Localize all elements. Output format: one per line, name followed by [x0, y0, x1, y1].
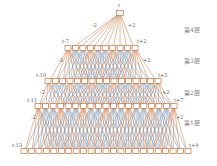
layer-3-label: 第3层: [184, 56, 200, 65]
node-box: [117, 11, 124, 16]
edge-label: -2: [31, 114, 36, 120]
node-box: [102, 46, 108, 51]
node-box: [58, 104, 64, 109]
edge-label: -2: [92, 22, 97, 28]
node-box: [28, 149, 34, 154]
node-box: [21, 149, 27, 154]
node-box: [66, 149, 72, 154]
node-box: [126, 104, 132, 109]
tcn-diagram: t t-7 t+2 t-10 t+5 t-11 t+7 t-13 t+9 -2 …: [0, 0, 217, 166]
node-box: [43, 104, 49, 109]
layer-1-label: 第1层: [184, 118, 200, 127]
node-box: [178, 149, 184, 154]
node-box: [96, 79, 102, 84]
node-box: [80, 46, 86, 51]
node-box: [95, 46, 101, 51]
node-box: [81, 149, 87, 154]
node-box: [89, 79, 95, 84]
node-box: [58, 149, 64, 154]
node-box: [111, 104, 117, 109]
node-box: [185, 149, 191, 154]
node-box: [74, 79, 80, 84]
layer-2-label: 第2层: [184, 88, 200, 97]
edge-label: +2: [162, 89, 169, 95]
node-box: [87, 46, 93, 51]
node-box: [35, 104, 41, 109]
node-box: [103, 149, 109, 154]
node-box: [140, 79, 146, 84]
node-box: [155, 79, 161, 84]
node-box: [141, 104, 147, 109]
node-box: [132, 46, 138, 51]
node-box: [110, 149, 116, 154]
node-box: [126, 79, 132, 84]
edge-label: +2: [128, 22, 135, 28]
l2-right-label: t+5: [158, 72, 167, 78]
node-box: [125, 46, 131, 51]
node-box: [133, 104, 139, 109]
edge-label: -2: [40, 89, 45, 95]
node-box: [163, 149, 169, 154]
edge-label: +2: [176, 114, 183, 120]
node-box: [52, 79, 58, 84]
l3-left-label: t-7: [62, 38, 69, 44]
l3-right-label: t+2: [137, 38, 146, 44]
node-box: [43, 149, 49, 154]
node-box: [103, 104, 109, 109]
node-box: [45, 79, 51, 84]
node-box: [110, 46, 116, 51]
node-box: [65, 46, 71, 51]
node-box: [96, 149, 102, 154]
node-box: [88, 104, 94, 109]
node-box: [95, 104, 101, 109]
node-box: [170, 149, 176, 154]
l0-right-label: t+9: [189, 142, 198, 148]
node-box: [118, 104, 124, 109]
node-box: [148, 149, 154, 154]
node-box: [133, 79, 139, 84]
node-box: [140, 149, 146, 154]
node-box: [125, 149, 131, 154]
node-box: [118, 79, 124, 84]
edge-label: +2: [143, 57, 150, 63]
node-box: [148, 79, 154, 84]
node-box: [171, 104, 177, 109]
node-box: [118, 149, 124, 154]
node-box: [67, 79, 73, 84]
node-box: [50, 104, 56, 109]
layer-4-label: 第4层: [184, 25, 200, 34]
node-box: [65, 104, 71, 109]
edge-label: -3: [58, 57, 63, 63]
node-box: [155, 149, 161, 154]
l1-right-label: t+7: [174, 97, 183, 103]
node-box: [111, 79, 117, 84]
node-box: [80, 104, 86, 109]
node-box: [73, 149, 79, 154]
node-box: [104, 79, 110, 84]
node-box: [73, 104, 79, 109]
node-box: [117, 46, 123, 51]
node-box: [36, 149, 42, 154]
node-box: [133, 149, 139, 154]
node-box: [60, 79, 66, 84]
node-box: [156, 104, 162, 109]
node-box: [51, 149, 57, 154]
node-box: [88, 149, 94, 154]
node-box: [72, 46, 78, 51]
node-box: [148, 104, 154, 109]
node-box: [82, 79, 88, 84]
top-node-label: t: [118, 2, 120, 8]
l2-left-label: t-10: [36, 72, 46, 78]
l1-left-label: t-11: [27, 97, 37, 103]
node-box: [163, 104, 169, 109]
l0-left-label: t-13: [12, 142, 22, 148]
